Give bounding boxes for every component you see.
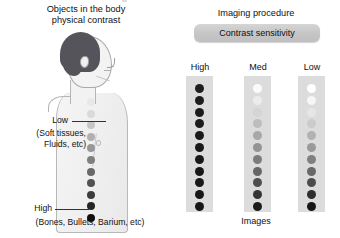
contrast-dot [307,202,316,211]
contrast-dot [253,84,262,93]
contrast-dot [195,202,204,211]
contrast-dot [253,167,262,176]
contrast-dot [195,84,204,93]
contrast-dot [307,119,316,128]
low-sublabel-line2: Fluids, etc) [0,139,86,149]
column-label-high: High [178,62,222,72]
contrast-dot [307,178,316,187]
contrast-dot [87,98,95,106]
contrast-dot [195,178,204,187]
high-leader-line [55,209,89,210]
contrast-dot [307,131,316,140]
contrast-dot [195,167,204,176]
nose [107,58,115,68]
contrast-dot [195,155,204,164]
contrast-dot [307,108,316,117]
high-label: High [4,203,52,213]
contrast-dot [195,131,204,140]
contrast-dot [307,143,316,152]
contrast-dot [195,108,204,117]
low-sublabel-line1: (Soft tissues, [0,128,86,138]
contrast-dot [253,155,262,164]
contrast-dot [307,84,316,93]
contrast-dot [87,179,95,187]
contrast-dot [253,202,262,211]
contrast-dot [253,143,262,152]
contrast-dot [195,96,204,105]
left-panel-title: Objects in the body physical contrast [0,4,172,27]
contrast-dot [87,133,95,141]
contrast-dot [87,110,95,118]
image-column-labels: High Med Low [172,62,340,74]
contrast-dot [253,96,262,105]
contrast-sensitivity-pill[interactable]: Contrast sensitivity [194,24,320,42]
images-footer-label: Images [172,216,340,226]
contrast-dot [253,108,262,117]
image-panel-low [298,76,325,212]
contrast-dot [253,178,262,187]
contrast-sensitivity-figure: Objects in the body physical contrast Lo… [0,0,340,238]
contrast-dot [253,119,262,128]
column-label-low: Low [290,62,334,72]
right-panel-title: Imaging procedure [172,8,340,18]
contrast-dot [195,190,204,199]
contrast-dot [307,167,316,176]
high-sublabel: (Bones, Bullets, Barium, etc) [8,217,172,227]
low-label: Low [18,115,68,125]
column-label-med: Med [236,62,280,72]
contrast-dot [87,144,95,152]
contrast-dot [87,121,95,129]
mouth [104,70,111,71]
contrast-dot [307,190,316,199]
contrast-dot [87,168,95,176]
shoulder-contour [48,96,70,112]
contrast-dot [195,143,204,152]
left-panel-title-line2: physical contrast [0,15,172,26]
image-panel-high [186,76,213,212]
image-panel-med [244,76,271,212]
contrast-dot [87,191,95,199]
contrast-dot [253,131,262,140]
head-profile [60,32,116,90]
contrast-dot [195,119,204,128]
left-panel-objects-in-body: Objects in the body physical contrast Lo… [0,0,172,238]
contrast-sensitivity-pill-label: Contrast sensitivity [219,28,295,38]
contrast-dot [307,96,316,105]
right-panel-imaging-procedure: Imaging procedure Contrast sensitivity H… [172,0,340,238]
ear [80,56,89,68]
contrast-dot [253,190,262,199]
left-panel-title-line1: Objects in the body [0,4,172,15]
contrast-dot [87,156,95,164]
low-leader-line [72,121,106,122]
contrast-dot [307,155,316,164]
